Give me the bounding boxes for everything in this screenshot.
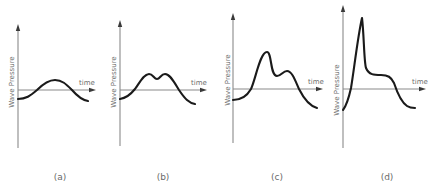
time-axis-arrow-icon xyxy=(316,87,323,91)
y-axis-label: Wave Pressure xyxy=(110,56,118,107)
panel-caption: (d) xyxy=(381,172,394,182)
panel-c: Wave Pressure time (c) xyxy=(224,13,324,182)
y-axis-arrow-icon xyxy=(118,20,122,27)
x-axis-label: time xyxy=(308,78,324,86)
y-axis-label: Wave Pressure xyxy=(8,56,16,107)
y-axis-label: Wave Pressure xyxy=(333,64,341,115)
wave-curve-c xyxy=(233,52,317,108)
panel-caption: (c) xyxy=(271,172,283,182)
panel-caption: (b) xyxy=(157,172,170,182)
time-axis-arrow-icon xyxy=(419,87,426,91)
panel-a: Wave Pressure time (a) xyxy=(8,24,96,182)
panel-d: Wave Pressure time (d) xyxy=(333,5,428,182)
wave-pressure-diagram: Wave Pressure time (a) Wave Pressure tim… xyxy=(0,0,436,185)
y-axis-label: Wave Pressure xyxy=(224,54,232,105)
panel-b: Wave Pressure time (b) xyxy=(110,20,207,182)
panel-caption: (a) xyxy=(54,172,67,182)
x-axis-label: time xyxy=(412,78,428,86)
wave-curve-d xyxy=(343,18,415,110)
wave-curve-b xyxy=(120,74,195,104)
time-axis-arrow-icon xyxy=(89,88,96,92)
y-axis-arrow-icon xyxy=(341,5,345,12)
time-axis-arrow-icon xyxy=(200,88,207,92)
x-axis-label: time xyxy=(79,79,95,87)
y-axis-arrow-icon xyxy=(231,13,235,20)
y-axis-arrow-icon xyxy=(16,24,20,31)
x-axis-label: time xyxy=(191,79,207,87)
